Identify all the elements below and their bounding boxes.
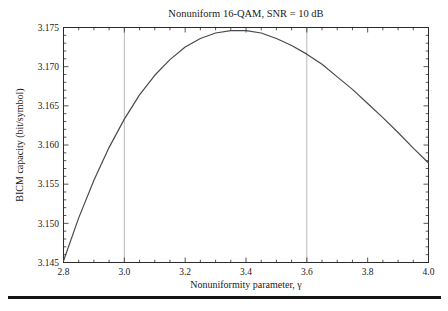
x-tick-label: 4.0 <box>423 267 435 277</box>
y-tick-label: 3.155 <box>38 179 60 189</box>
y-tick-label: 3.175 <box>38 23 60 33</box>
y-tick-label: 3.150 <box>38 219 60 229</box>
x-tick-label: 3.6 <box>301 267 313 277</box>
x-tick-label: 2.8 <box>58 267 70 277</box>
page-divider-rule <box>8 296 441 299</box>
y-tick-label: 3.165 <box>38 101 60 111</box>
y-tick-label: 3.145 <box>38 258 60 268</box>
x-tick-label: 3.4 <box>240 267 252 277</box>
x-axis-label: Nonuniformity parameter, γ <box>63 279 429 290</box>
x-tick-label: 3.0 <box>118 267 130 277</box>
chart-canvas: 2.83.03.23.43.63.84.03.1453.1503.1553.16… <box>0 0 448 311</box>
figure-page: Nonuniform 16-QAM, SNR = 10 dB BICM capa… <box>0 0 448 311</box>
capacity-curve <box>64 31 429 261</box>
y-tick-label: 3.160 <box>38 140 60 150</box>
x-tick-label: 3.2 <box>179 267 191 277</box>
plot-frame <box>64 28 429 263</box>
y-tick-label: 3.170 <box>38 62 60 72</box>
x-tick-label: 3.8 <box>362 267 374 277</box>
